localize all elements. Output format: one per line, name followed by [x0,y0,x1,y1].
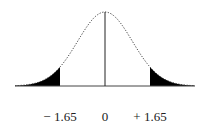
tick-label-mean: 0 [102,109,109,125]
tick-label-plus-critical: + 1.65 [133,109,166,125]
right-tail-shaded-region [150,67,195,86]
tick-label-minus-critical: − 1.65 [43,109,76,125]
normal-curve-diagram [0,0,205,127]
left-tail-shaded-region [15,67,60,86]
